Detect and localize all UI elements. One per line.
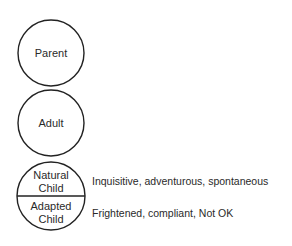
natural-child-line2: Child <box>21 182 81 195</box>
adult-label: Adult <box>21 117 81 130</box>
natural-child-line1: Natural <box>21 169 81 182</box>
adapted-child-line1: Adapted <box>21 200 81 213</box>
parent-label: Parent <box>21 47 81 60</box>
adapted-child-label: Adapted Child <box>21 200 81 226</box>
natural-child-description: Inquisitive, adventurous, spontaneous <box>92 175 268 187</box>
adapted-child-line2: Child <box>21 213 81 226</box>
natural-child-label: Natural Child <box>21 169 81 195</box>
adapted-child-description: Frightened, compliant, Not OK <box>92 207 233 219</box>
